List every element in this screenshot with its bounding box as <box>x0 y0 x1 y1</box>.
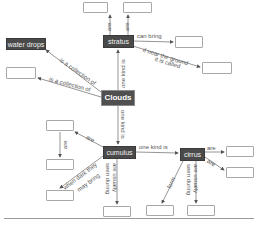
link-label-can-bring: can bring <box>137 33 162 39</box>
link-label-cirrus-usually: are usually <box>193 164 199 193</box>
blank-node-near-ground[interactable] <box>202 62 232 74</box>
link-label-cumulus-usually: are usually <box>112 163 118 192</box>
link-label-cumulus-seen-during: seen during <box>105 163 111 194</box>
blank-node-cumulus-are-2[interactable] <box>46 159 74 170</box>
blank-node-can-bring[interactable] <box>175 36 203 48</box>
blank-node-cumulus-seen-during[interactable] <box>103 206 131 217</box>
concept-water-drops: water drops <box>6 38 46 50</box>
blank-node-cirrus-are-2[interactable] <box>226 167 254 178</box>
link-label-cirrus-seen-during: seen during <box>186 164 192 195</box>
link-label-stratus-are-right: are <box>124 22 130 31</box>
link-label-clouds-cumulus: one kind is <box>120 110 126 139</box>
concept-cirrus: cirrus <box>180 148 205 161</box>
concept-stratus: stratus <box>103 35 134 48</box>
blank-node-cirrus-are[interactable] <box>226 146 254 157</box>
link-label-cirrus-are: are <box>207 145 216 151</box>
blank-node-cirrus-seen-during[interactable] <box>187 205 215 216</box>
blank-node-collection[interactable] <box>6 67 36 79</box>
blank-node-cirrus-form[interactable] <box>146 205 174 216</box>
link-label-stratus-are-left: are <box>106 22 112 31</box>
bottom-divider <box>4 218 254 219</box>
link-label-clouds-stratus: one kind is <box>120 59 126 88</box>
concept-clouds: Clouds <box>101 90 135 106</box>
blank-node-stratus-are-right[interactable] <box>123 2 152 13</box>
concept-cumulus: cumulus <box>103 146 136 159</box>
blank-node-cumulus-are[interactable] <box>46 120 74 131</box>
link-label-cumulus-are-down: are <box>62 140 68 149</box>
blank-node-stratus-are-left[interactable] <box>83 2 108 13</box>
blank-node-cumulus-may-bring[interactable] <box>46 190 74 201</box>
connector-lines <box>0 0 259 225</box>
link-label-cumulus-cirrus: one kind is <box>139 144 168 150</box>
